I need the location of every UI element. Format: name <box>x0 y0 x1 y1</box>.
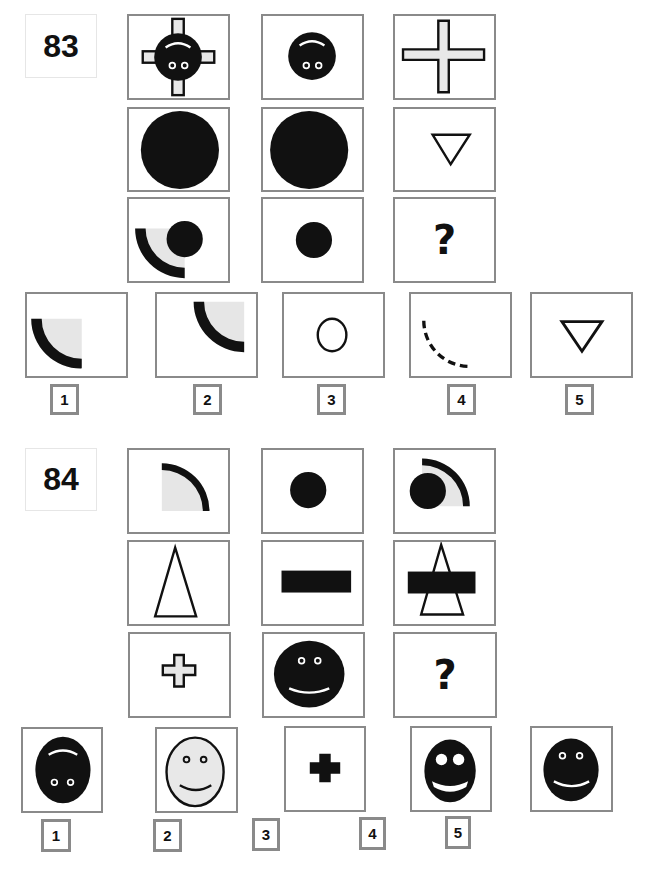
puzzle-number-83: 83 <box>25 14 97 78</box>
black-cross-icon <box>286 728 364 810</box>
grid-cell-84-r1c1 <box>127 448 230 534</box>
grid-cell-83-r2c1 <box>127 107 230 192</box>
answer-option-84-2[interactable] <box>155 727 238 813</box>
answer-option-83-2[interactable] <box>155 292 258 378</box>
small-outline-cross-icon <box>130 634 229 716</box>
puzzle-number-84: 84 <box>25 448 97 511</box>
answer-number-84-2[interactable]: 2 <box>153 819 182 852</box>
answer-option-84-5[interactable] <box>530 726 613 812</box>
big-eye-smiley-icon <box>412 728 490 810</box>
arc-with-dot-icon <box>395 450 494 532</box>
dashed-arc-icon <box>411 294 510 376</box>
outline-cross-icon <box>395 16 494 98</box>
missing-answer-cell-83: ? <box>393 197 496 283</box>
lower-left-quarter-arc-icon <box>27 294 126 376</box>
filled-dot-icon <box>263 450 362 532</box>
grid-cell-83-r1c2 <box>261 14 364 100</box>
light-smiley-icon <box>157 729 236 811</box>
quarter-arc-icon <box>129 450 228 532</box>
answer-option-84-3[interactable] <box>284 726 366 812</box>
upper-right-quarter-arc-icon <box>157 294 256 376</box>
grid-cell-83-r3c1 <box>127 197 230 283</box>
down-triangle-icon <box>395 109 494 190</box>
grid-cell-84-r1c3 <box>393 448 496 534</box>
question-mark: ? <box>433 652 456 698</box>
answer-number-84-3[interactable]: 3 <box>252 818 280 851</box>
answer-option-83-4[interactable] <box>409 292 512 378</box>
arc-with-dot-icon <box>129 199 228 281</box>
question-mark: ? <box>433 217 456 263</box>
missing-answer-cell-84: ? <box>393 632 497 718</box>
grid-cell-84-r2c3 <box>393 540 496 626</box>
upside-down-face-icon <box>263 16 362 98</box>
answer-option-84-4[interactable] <box>410 726 492 812</box>
triangle-with-bar-icon <box>395 542 494 624</box>
answer-number-83-1[interactable]: 1 <box>50 384 79 415</box>
grid-cell-84-r3c1 <box>128 632 231 718</box>
grid-cell-83-r3c2 <box>261 197 364 283</box>
small-filled-dot-icon <box>263 199 362 281</box>
grid-cell-84-r2c1 <box>127 540 230 626</box>
answer-number-83-5[interactable]: 5 <box>565 384 594 415</box>
grid-cell-83-r2c2 <box>261 107 364 192</box>
tall-triangle-icon <box>129 542 228 624</box>
grid-cell-84-r2c2 <box>261 540 364 626</box>
cross-with-upside-down-face-icon <box>129 16 228 98</box>
answer-number-84-4[interactable]: 4 <box>359 817 386 850</box>
answer-number-84-5[interactable]: 5 <box>445 816 471 849</box>
grid-cell-84-r3c2 <box>262 632 365 718</box>
grid-cell-84-r1c2 <box>261 448 364 534</box>
smiley-face-icon <box>264 634 363 716</box>
answer-number-83-2[interactable]: 2 <box>193 384 222 415</box>
large-filled-circle-icon <box>129 109 228 190</box>
answer-number-84-1[interactable]: 1 <box>41 819 71 852</box>
answer-option-84-1[interactable] <box>21 727 103 813</box>
smiley-face-icon <box>532 728 611 810</box>
down-triangle-icon <box>532 294 631 376</box>
grid-cell-83-r1c1 <box>127 14 230 100</box>
large-filled-circle-icon <box>263 109 362 190</box>
grid-cell-83-r1c3 <box>393 14 496 100</box>
grid-cell-83-r2c3 <box>393 107 496 192</box>
black-bar-icon <box>263 542 362 624</box>
answer-option-83-3[interactable] <box>282 292 385 378</box>
upside-down-face-icon <box>23 729 101 811</box>
answer-number-83-3[interactable]: 3 <box>317 384 346 415</box>
answer-number-83-4[interactable]: 4 <box>447 384 476 415</box>
answer-option-83-1[interactable] <box>25 292 128 378</box>
outline-circle-icon <box>284 294 383 376</box>
answer-option-83-5[interactable] <box>530 292 633 378</box>
